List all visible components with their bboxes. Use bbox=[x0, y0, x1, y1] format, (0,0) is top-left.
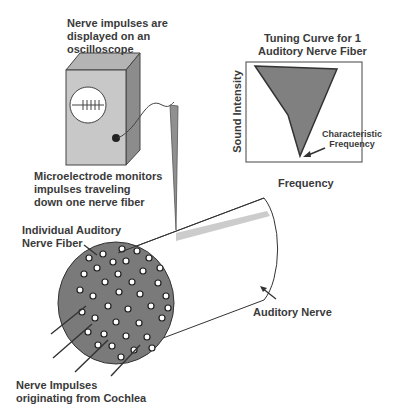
auditory-nerve-cylinder bbox=[58, 198, 278, 364]
y-axis-label: Sound Intensity bbox=[231, 70, 244, 153]
oscilloscope-icon bbox=[66, 53, 174, 165]
x-axis-label: Frequency bbox=[278, 177, 334, 190]
impulses-label: Nerve Impulses originating from Cochlea bbox=[16, 379, 146, 405]
fiber-label: Individual Auditory Nerve Fiber bbox=[22, 224, 121, 250]
microelectrode-icon bbox=[170, 105, 178, 230]
chart-title: Tuning Curve for 1 Auditory Nerve Fiber bbox=[258, 32, 367, 58]
microelectrode-label: Microelectrode monitors impulses traveli… bbox=[34, 170, 162, 209]
auditory-nerve-label: Auditory Nerve bbox=[253, 306, 332, 319]
oscilloscope-label: Nerve impulses are displayed on an oscil… bbox=[67, 17, 168, 56]
characteristic-frequency-label: Characteristic Frequency bbox=[322, 129, 382, 149]
